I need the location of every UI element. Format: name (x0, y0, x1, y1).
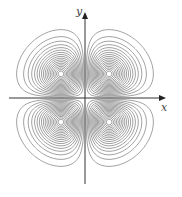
y-axis-arrow-icon (82, 12, 88, 19)
contour-plot (0, 0, 182, 197)
x-axis-label: x (161, 102, 167, 113)
axes (9, 12, 166, 184)
y-axis-label: y (76, 6, 82, 17)
